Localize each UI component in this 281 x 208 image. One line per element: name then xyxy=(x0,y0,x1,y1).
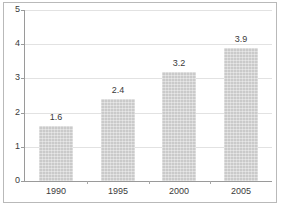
x-axis-tick-label-2005: 2005 xyxy=(219,187,263,196)
bar-2000[interactable] xyxy=(162,72,196,181)
bar-value-label-1995: 2.4 xyxy=(96,86,140,95)
y-tick-1 xyxy=(21,147,25,148)
y-tick-5 xyxy=(21,10,25,11)
bar-2005[interactable] xyxy=(224,48,258,181)
bar-group: 3.2 xyxy=(162,10,196,181)
y-axis-tick-label: 3 xyxy=(2,73,20,82)
y-tick-3 xyxy=(21,78,25,79)
y-axis-labels: 012345 xyxy=(0,0,20,208)
y-tick-0 xyxy=(21,181,25,182)
y-tick-2 xyxy=(21,113,25,114)
bar-group: 1.6 xyxy=(39,10,73,181)
x-axis-labels: 1990199520002005 xyxy=(25,185,272,199)
bar-value-label-1990: 1.6 xyxy=(34,113,78,122)
bar-group: 3.9 xyxy=(224,10,258,181)
y-tick-4 xyxy=(21,44,25,45)
y-axis-tick-label: 0 xyxy=(2,176,20,185)
x-axis-tick-label-2000: 2000 xyxy=(157,187,201,196)
y-axis-tick-label: 2 xyxy=(2,108,20,117)
x-tick xyxy=(87,181,88,184)
y-axis-tick-label: 5 xyxy=(2,5,20,14)
plot-area: 1.62.43.23.9 xyxy=(25,10,272,181)
x-axis-tick-label-1990: 1990 xyxy=(34,187,78,196)
x-tick xyxy=(210,181,211,184)
bar-chart-figure: 012345 1.62.43.23.9 1990199520002005 xyxy=(0,0,281,208)
y-axis-tick-label: 4 xyxy=(2,39,20,48)
bar-1990[interactable] xyxy=(39,126,73,181)
bar-group: 2.4 xyxy=(101,10,135,181)
y-axis-tick-label: 1 xyxy=(2,142,20,151)
bar-value-label-2000: 3.2 xyxy=(157,59,201,68)
x-tick xyxy=(149,181,150,184)
bar-value-label-2005: 3.9 xyxy=(219,35,263,44)
bar-1995[interactable] xyxy=(101,99,135,181)
x-axis-tick-label-1995: 1995 xyxy=(96,187,140,196)
